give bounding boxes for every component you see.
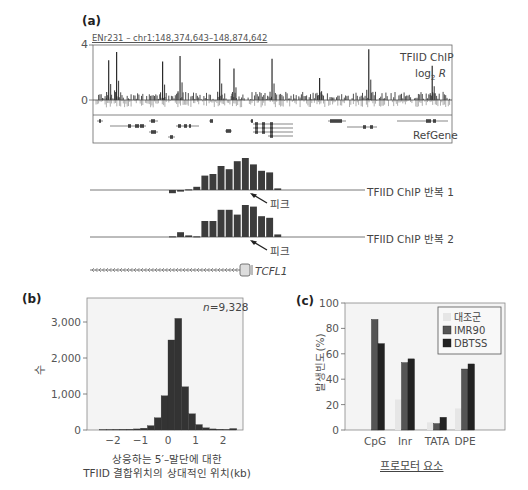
svg-text:2,000: 2,000 [51,352,81,364]
x-axis-label-line1: 상응하는 5′–말단에 대한 [62,451,272,466]
peak-label-1: 피크 [270,196,290,211]
track-title: TFIID ChIP [400,51,453,63]
unit-sub: 2 [431,74,435,82]
svg-text:Inr: Inr [398,435,413,447]
replicate-svg [0,150,528,280]
svg-text:−1: −1 [133,434,148,446]
svg-text:100: 100 [319,297,339,309]
x-axis-label-promoter: 프로모터 요소 [380,457,444,473]
n-label: n=9,328 [203,301,249,313]
svg-text:0: 0 [332,424,339,436]
x-axis-label-line2: TFIID 결합위치의 상대적인 위치(kb) [62,465,272,480]
rep1-label: TFIID ChIP 반복 1 [367,184,454,199]
replicate-tracks [0,150,528,280]
svg-text:3,000: 3,000 [51,316,81,328]
svg-text:1,000: 1,000 [51,388,81,400]
svg-text:0: 0 [74,424,81,436]
unit-var: R [439,67,446,79]
svg-text:DPE: DPE [454,435,475,447]
unit-prefix: log [415,67,431,79]
svg-text:TATA: TATA [424,435,451,447]
svg-text:IMR90: IMR90 [454,325,485,336]
svg-text:1: 1 [192,434,199,446]
svg-text:20: 20 [326,399,339,411]
svg-text:2: 2 [220,434,227,446]
y-axis-label-frequency: 발생빈도(%) [312,333,327,391]
svg-text:대조군: 대조군 [454,312,481,323]
svg-text:60: 60 [326,348,339,360]
svg-text:40: 40 [326,373,339,385]
svg-text:80: 80 [326,322,339,334]
svg-text:DBTSS: DBTSS [454,338,487,349]
svg-text:CpG: CpG [364,435,386,447]
rep2-label: TFIID ChIP 반복 2 [367,231,454,246]
chip-signal-svg [0,0,528,150]
peak-label-2: 피크 [270,243,290,258]
gene-name-tcfl1: TCFL1 [255,265,287,277]
svg-text:0: 0 [165,434,172,446]
track-unit: log2 R [415,67,446,82]
svg-text:−2: −2 [105,434,120,446]
refgene-label: RefGene [413,129,458,141]
y-axis-label-count: 수 [31,365,47,375]
chip-signal-track [0,0,528,150]
